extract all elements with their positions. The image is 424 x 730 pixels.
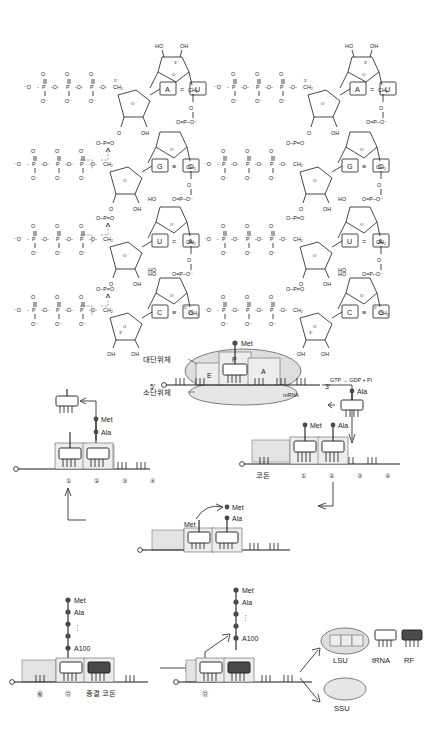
- ala-label: Ala: [101, 429, 111, 436]
- atom-o: O⁻: [31, 175, 38, 181]
- ribose-r1: O O OH: [307, 90, 340, 136]
- trna-label: tRNA: [372, 656, 391, 665]
- large-subunit-label: 대단위체: [143, 355, 171, 364]
- met-label: Met: [101, 416, 113, 423]
- atom-ch2: CH₂: [103, 236, 113, 242]
- atom-ch2: CH₂: [103, 307, 113, 313]
- bond-dash: -: [217, 161, 219, 167]
- legend-rf: RF: [402, 630, 422, 665]
- phosphate-link: O=P–O⁻: [172, 196, 193, 202]
- bond-dash: -: [27, 161, 29, 167]
- bond-o: -O-: [89, 236, 97, 242]
- atom-o: O: [269, 294, 273, 300]
- ring-o: O: [123, 178, 127, 183]
- ala-label: Ala: [242, 599, 252, 606]
- phosphate-link: O–P=O: [286, 286, 304, 292]
- ribose-row2: O O OH: [109, 167, 142, 212]
- bond-dash: -: [227, 84, 229, 90]
- atom-o: O: [187, 182, 191, 188]
- ring-o: O: [362, 72, 366, 77]
- atom-oh: OH: [297, 351, 305, 357]
- ribose-r3: O O OH: [299, 242, 332, 287]
- atom-o: O⁻: [269, 321, 276, 327]
- atom-ch2: CH₂: [188, 87, 198, 93]
- atom-oh: OH: [331, 130, 339, 136]
- atom-p: P: [90, 84, 94, 90]
- met-label: Met: [241, 340, 253, 347]
- base-left-r3: U: [347, 237, 352, 246]
- triphosphate-chain-row3: ⁻O - P O O⁻ -O- P O O⁻ -O- P O O⁻ -O- CH…: [14, 215, 114, 256]
- atom-p: P: [256, 84, 260, 90]
- atom-p: P: [80, 236, 84, 242]
- bond-o: -O-: [89, 307, 97, 313]
- atom-o: O: [269, 148, 273, 154]
- ring-o: O: [321, 101, 325, 106]
- three-prime-label: 3′: [325, 383, 331, 390]
- codon-number-3: ③: [357, 473, 362, 479]
- atom-o: O: [377, 257, 381, 263]
- bond-o: -O-: [41, 307, 49, 313]
- atom-o: O: [255, 71, 259, 77]
- triphosphate-chain-row2: ⁻O - P O O⁻ -O- P O O⁻ -O- P O O⁻ -O- CH…: [14, 140, 114, 181]
- triphosphate-chain-r3: ⁻O - P O O⁻ -O- P O O⁻ -O- P O O⁻ -O- CH…: [204, 215, 304, 256]
- ala-label: Ala: [232, 515, 242, 522]
- met-label: Met: [74, 597, 86, 604]
- phosphate-link: O–P=O: [286, 215, 304, 221]
- bond-r3: =: [362, 237, 366, 246]
- ring-o: O: [131, 101, 135, 106]
- atom-oh: OH: [133, 281, 141, 287]
- ala-label: Ala: [74, 609, 84, 616]
- atom-o: O: [79, 294, 83, 300]
- atom-ch2: CH₂: [103, 161, 113, 167]
- triphosphate-chain-row1: ⁻O - P O O⁻ -O- P O O⁻ -O- P O O⁻ -O- 5′…: [24, 71, 123, 104]
- atom-o-minus: ⁻O: [214, 84, 221, 90]
- atom-ch2: CH₂: [376, 239, 386, 245]
- bond-dash: -: [217, 236, 219, 242]
- atom-o: O⁻: [269, 175, 276, 181]
- atom-p: P: [66, 84, 70, 90]
- base-left-3: U: [157, 237, 162, 246]
- bond-o: -O-: [231, 307, 239, 313]
- atom-p: P: [32, 236, 36, 242]
- atom-o: O⁻: [255, 98, 262, 104]
- atom-o: O⁻: [221, 321, 228, 327]
- atom-o: O⁻: [245, 175, 252, 181]
- bond-o: -O-: [99, 84, 107, 90]
- atom-ch2: CH₂: [303, 84, 313, 90]
- atom-o: O⁻: [31, 321, 38, 327]
- atom-o: O⁻: [245, 250, 252, 256]
- atom-ch2: CH₂: [293, 307, 303, 313]
- legend-ssu: SSU: [324, 678, 366, 713]
- site-e-label: E: [207, 372, 212, 379]
- atom-o: O: [65, 71, 69, 77]
- atom-p: P: [56, 161, 60, 167]
- atom-o: O: [245, 294, 249, 300]
- stage-termination-left: Met Ala ⋮ A100 ㊙ ㊘ 종결 코돈: [10, 597, 192, 698]
- bond-o: -O-: [51, 84, 59, 90]
- atom-o: O⁻: [221, 250, 228, 256]
- atom-ho: HO: [148, 267, 156, 273]
- ring-o: O: [313, 324, 317, 329]
- atom-ch2: CH₂: [376, 164, 386, 170]
- bond-o: -O-: [41, 161, 49, 167]
- legend-trna: tRNA: [372, 630, 396, 665]
- atom-o: O: [79, 223, 83, 229]
- ring-o: O: [172, 72, 176, 77]
- atom-ch2: CH₂: [293, 236, 303, 242]
- codon-number-3: ③: [122, 478, 127, 484]
- atom-p: P: [42, 84, 46, 90]
- atom-oh: OH: [131, 351, 139, 357]
- bond-o: -O-: [279, 161, 287, 167]
- atom-p: P: [270, 307, 274, 313]
- ring-o: O: [170, 147, 174, 152]
- atom-o: O⁻: [79, 175, 86, 181]
- atom-p: P: [32, 161, 36, 167]
- met-label: Met: [310, 422, 322, 429]
- codon-number-1: ①: [66, 478, 71, 484]
- gtp-label: GTP → GDP + Pi: [330, 377, 372, 383]
- a100-label: A100: [74, 645, 90, 652]
- codon-number-100: ㊘: [65, 690, 71, 698]
- bond-o: -O-: [75, 84, 83, 90]
- atom-ho: HO: [338, 196, 346, 202]
- phosphate-link: O–P=O: [96, 140, 114, 146]
